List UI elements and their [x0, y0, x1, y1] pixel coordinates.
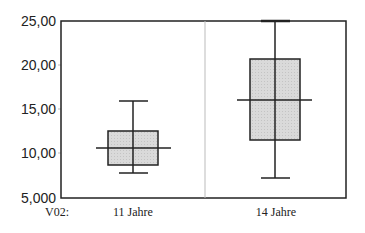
x-axis: V02: 11 Jahre 14 Jahre	[45, 205, 296, 219]
y-tick-20: 20,00	[21, 57, 56, 73]
x-category-11-jahre: 11 Jahre	[113, 205, 153, 219]
box-14-jahre	[237, 21, 312, 178]
plot-frame	[61, 21, 346, 198]
box-11-jahre	[96, 101, 171, 173]
y-axis: 25,00 20,00 15,00 10,00 5,000	[21, 13, 61, 206]
box-plot-chart: 25,00 20,00 15,00 10,00 5,000	[0, 0, 365, 233]
y-tick-25: 25,00	[21, 13, 56, 29]
x-axis-variable-label: V02:	[45, 205, 69, 219]
y-tick-15: 15,00	[21, 101, 56, 117]
x-category-14-jahre: 14 Jahre	[256, 205, 296, 219]
y-tick-5: 5,000	[21, 190, 56, 206]
y-tick-10: 10,00	[21, 145, 56, 161]
